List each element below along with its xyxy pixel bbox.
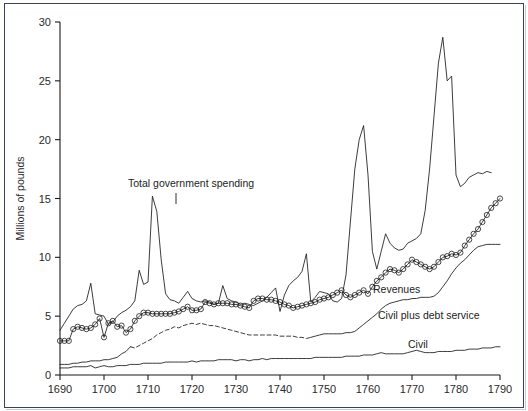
- x-tick-label: 1770: [400, 383, 424, 395]
- series-line: [60, 347, 500, 368]
- x-tick-label: 1710: [136, 383, 160, 395]
- y-tick-label: 30: [39, 16, 51, 28]
- annotation-revenues: Revenues: [373, 283, 420, 295]
- series-line-dashed-segment: [130, 323, 310, 348]
- annotation-total-spending: Total government spending: [128, 177, 254, 189]
- chart-plot: 0510152025301690170017101720173017401750…: [0, 0, 528, 411]
- y-tick-label: 0: [45, 369, 51, 381]
- y-axis-title: Millions of pounds: [14, 156, 26, 240]
- x-tick-label: 1690: [48, 383, 72, 395]
- annotation-civil-plus-debt: Civil plus debt service: [378, 309, 480, 321]
- y-tick-label: 15: [39, 193, 51, 205]
- x-tick-label: 1780: [444, 383, 468, 395]
- y-tick-label: 20: [39, 134, 51, 146]
- series-civil: [60, 347, 500, 368]
- y-tick-label: 5: [45, 310, 51, 322]
- x-tick-label: 1790: [488, 383, 512, 395]
- figure-container: 0510152025301690170017101720173017401750…: [0, 0, 528, 411]
- series-revenues: [57, 196, 502, 344]
- y-tick-label: 10: [39, 251, 51, 263]
- x-tick-label: 1760: [356, 383, 380, 395]
- series-total-government-spending: [60, 37, 491, 330]
- x-tick-label: 1750: [312, 383, 336, 395]
- series-line: [60, 37, 491, 330]
- series-line-segment: [60, 347, 130, 365]
- x-tick-label: 1700: [92, 383, 116, 395]
- y-tick-label: 25: [39, 75, 51, 87]
- x-tick-label: 1720: [180, 383, 204, 395]
- annotation-civil: Civil: [408, 338, 428, 350]
- x-tick-label: 1730: [224, 383, 248, 395]
- x-tick-label: 1740: [268, 383, 292, 395]
